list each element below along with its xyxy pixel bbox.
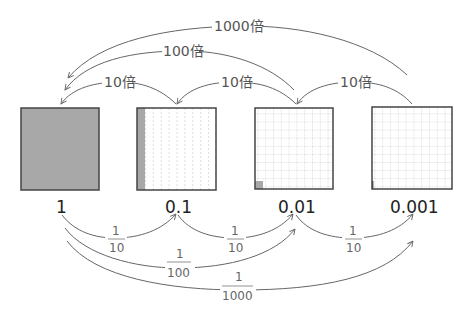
svg-text:1000: 1000 (222, 289, 253, 303)
svg-text:10: 10 (346, 241, 361, 255)
svg-text:1: 1 (112, 224, 120, 238)
svg-text:1: 1 (231, 224, 239, 238)
label-10x-c: 10倍 (340, 74, 372, 90)
value-label-0.001: 0.001 (390, 197, 439, 217)
box-0.1 (137, 108, 216, 190)
box-0.01 (255, 108, 333, 189)
value-label-1: 1 (56, 197, 67, 217)
svg-text:1: 1 (235, 270, 243, 284)
svg-text:1: 1 (349, 224, 357, 238)
decimal-place-value-diagram: 1000倍 100倍 10倍 10倍 10倍 1 0.1 0.01 (0, 0, 472, 326)
svg-text:1: 1 (176, 247, 184, 261)
label-10x-b: 10倍 (221, 74, 253, 90)
bottom-arrows: 1 10 1 10 1 10 1 100 (62, 214, 413, 303)
box-0.001 (372, 107, 452, 189)
svg-text:10: 10 (109, 241, 124, 255)
top-arrows: 1000倍 100倍 10倍 10倍 10倍 (61, 18, 412, 104)
svg-text:10: 10 (228, 241, 243, 255)
svg-text:100: 100 (167, 266, 190, 280)
value-label-0.01: 0.01 (278, 197, 316, 217)
label-10x-a: 10倍 (104, 74, 136, 90)
label-100x: 100倍 (163, 43, 204, 59)
value-label-0.1: 0.1 (165, 197, 192, 217)
label-1000x: 1000倍 (214, 18, 264, 34)
box-1 (21, 108, 99, 190)
